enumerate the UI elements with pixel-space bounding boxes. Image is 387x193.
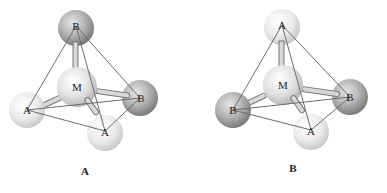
tetrahedral-isomers-diagram: M B A B A A M [0,0,387,193]
caption-a: A [81,165,89,177]
atom-label-left: A [23,104,31,116]
center-label: M [72,81,82,93]
atom-label-bottom: A [307,125,315,137]
structure-a: M B A B A A [9,10,158,177]
atom-label-top: B [72,20,79,32]
atom-label-right: B [346,91,353,103]
center-label: M [278,79,288,91]
structure-b: M A B B A B [215,9,368,174]
atom-label-left: B [229,104,236,116]
caption-b: B [289,162,297,174]
atom-label-right: B [137,92,144,104]
atom-label-bottom: A [101,126,109,138]
atom-label-top: A [278,19,286,31]
